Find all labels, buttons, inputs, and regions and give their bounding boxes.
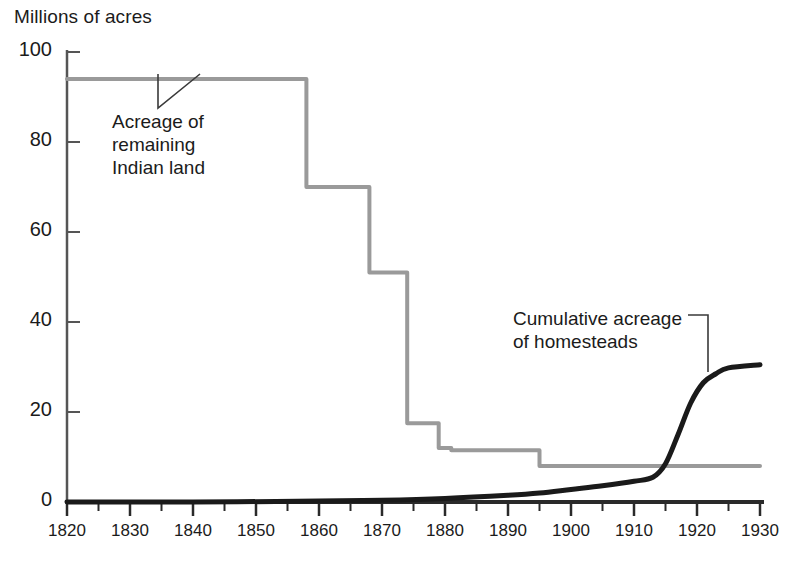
x-tick-label-1860: 1860 [289,521,349,541]
y-tick-label-0: 0 [0,488,52,511]
x-tick-label-1830: 1830 [100,521,160,541]
x-tick-label-1850: 1850 [226,521,286,541]
y-tick-label-40: 40 [0,308,52,331]
y-tick-label-20: 20 [0,398,52,421]
y-tick-label-100: 100 [0,38,52,61]
x-tick-label-1840: 1840 [163,521,223,541]
indian-land-line-2: remaining [112,133,205,156]
x-tick-label-1920: 1920 [667,521,727,541]
x-tick-label-1880: 1880 [415,521,475,541]
chart-plot-area [0,0,786,565]
chart-figure: Millions of acres 100806040200 182018301… [0,0,786,565]
homesteads-line-1: Cumulative acreage [513,307,682,330]
series-line-homesteads [67,365,760,502]
x-tick-label-1910: 1910 [604,521,664,541]
leader-line-homesteads-label [688,315,708,372]
x-tick-label-1870: 1870 [352,521,412,541]
x-tick-label-1890: 1890 [478,521,538,541]
annotation-homesteads: Cumulative acreageof homesteads [513,307,682,353]
y-tick-label-60: 60 [0,218,52,241]
x-tick-label-1930: 1930 [730,521,786,541]
x-tick-label-1900: 1900 [541,521,601,541]
indian-land-line-1: Acreage of [112,110,205,133]
annotation-indian-land: Acreage ofremainingIndian land [112,110,205,179]
indian-land-line-3: Indian land [112,156,205,179]
homesteads-line-2: of homesteads [513,330,682,353]
x-tick-label-1820: 1820 [37,521,97,541]
y-tick-label-80: 80 [0,128,52,151]
